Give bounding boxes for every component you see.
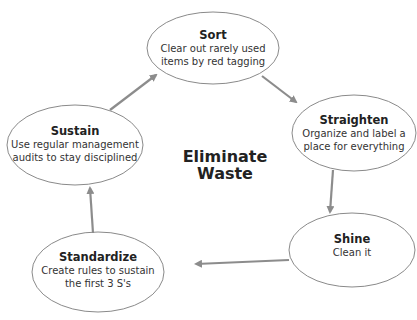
arrow-sort-to-straighten xyxy=(262,76,296,102)
node-desc: Organize and label a xyxy=(302,127,405,140)
node-standardize: Standardize Create rules to sustain the … xyxy=(32,240,164,300)
node-sort: Sort Clear out rarely used items by red … xyxy=(150,18,276,78)
node-desc: Clean it xyxy=(333,246,371,259)
center-label-line2: Waste xyxy=(170,165,280,182)
node-desc: place for everything xyxy=(304,140,405,153)
arrow-straighten-to-shine xyxy=(330,170,333,212)
node-desc: items by red tagging xyxy=(161,55,265,68)
node-title: Sustain xyxy=(51,124,100,138)
node-title: Straighten xyxy=(319,113,388,127)
node-shine: Shine Clean it xyxy=(290,225,414,265)
arrow-shine-to-standardize xyxy=(196,260,289,264)
center-label: Eliminate Waste xyxy=(170,148,280,182)
node-straighten: Straighten Organize and label a place fo… xyxy=(292,103,416,163)
node-desc: Create rules to sustain xyxy=(41,264,154,277)
node-title: Shine xyxy=(334,232,370,246)
node-desc: the first 3 S's xyxy=(65,277,131,290)
node-title: Sort xyxy=(199,28,226,42)
node-desc: audits to stay disciplined xyxy=(13,151,138,164)
node-title: Standardize xyxy=(59,250,137,264)
node-desc: Clear out rarely used xyxy=(160,42,265,55)
arrow-sustain-to-sort xyxy=(110,75,156,110)
node-desc: Use regular management xyxy=(11,138,139,151)
center-label-line1: Eliminate xyxy=(170,148,280,165)
node-sustain: Sustain Use regular management audits to… xyxy=(6,114,144,174)
arrow-standardize-to-sustain xyxy=(90,188,93,233)
